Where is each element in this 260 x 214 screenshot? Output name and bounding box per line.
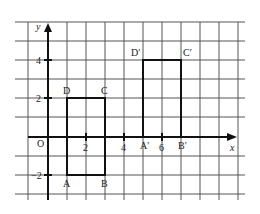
- vertex-label-d: D: [63, 85, 70, 96]
- vertex-label-a: A: [63, 178, 71, 189]
- y-tick-2: 2: [36, 93, 41, 104]
- x-tick-2: 2: [83, 142, 88, 153]
- vertex-label-a-prime: A′: [140, 140, 149, 151]
- origin-label: O: [37, 138, 44, 149]
- y-axis-label: y: [35, 21, 41, 32]
- vertex-label-b: B: [101, 178, 108, 189]
- vertex-label-d-prime: D′: [131, 47, 140, 58]
- x-axis-label: x: [229, 142, 235, 153]
- vertex-label-c: C: [101, 85, 108, 96]
- y-axis-arrow-icon: [44, 23, 52, 32]
- coordinate-diagram: y x O 2 4 6 4 2 −2 A B C D A′ B′ C′ D′: [0, 0, 260, 214]
- y-tick-neg2: −2: [31, 170, 42, 181]
- grid-lines: [15, 22, 245, 200]
- vertex-label-c-prime: C′: [183, 47, 192, 58]
- x-tick-4: 4: [121, 142, 126, 153]
- y-tick-4: 4: [36, 55, 41, 66]
- x-tick-6: 6: [159, 142, 164, 153]
- vertex-label-b-prime: B′: [178, 140, 187, 151]
- x-axis-arrow-icon: [227, 133, 237, 141]
